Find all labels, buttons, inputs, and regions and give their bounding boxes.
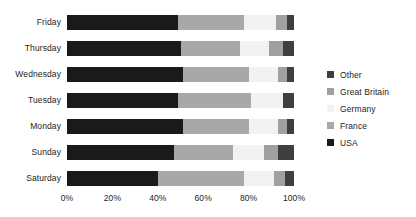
bar-track <box>67 15 294 30</box>
bar-segment <box>67 145 174 160</box>
category-label: Sunday <box>0 147 67 157</box>
legend-swatch-icon <box>327 71 334 78</box>
bar-segment <box>287 119 294 134</box>
bar-segment <box>283 41 294 56</box>
bar-segment <box>174 145 233 160</box>
bar-segment <box>183 67 249 82</box>
bar-segment <box>67 15 178 30</box>
bar-segment <box>158 171 244 186</box>
bar-row: Friday <box>0 9 320 35</box>
bar-row: Saturday <box>0 165 320 191</box>
bar-segment <box>244 15 276 30</box>
category-label: Friday <box>0 17 67 27</box>
bar-segment <box>67 41 181 56</box>
bar-segment <box>251 93 283 108</box>
category-label: Thursday <box>0 43 67 53</box>
bar-track <box>67 67 294 82</box>
stacked-bar-chart: FridayThursdayWednesdayTuesdayMondaySund… <box>0 0 416 217</box>
bar-track <box>67 93 294 108</box>
category-label: Monday <box>0 121 67 131</box>
x-axis-tick-label: 0% <box>61 193 74 204</box>
bar-segment <box>183 119 249 134</box>
legend-item: Other <box>327 66 415 83</box>
bar-segment <box>249 119 279 134</box>
bar-segment <box>283 93 294 108</box>
bar-row: Sunday <box>0 139 320 165</box>
bar-segment <box>285 171 294 186</box>
plot-area: FridayThursdayWednesdayTuesdayMondaySund… <box>0 0 320 217</box>
bar-segment <box>287 67 294 82</box>
bar-segment <box>278 145 294 160</box>
legend-item: Germany <box>327 100 415 117</box>
bar-track <box>67 171 294 186</box>
legend-item: Great Britain <box>327 83 415 100</box>
bar-segment <box>244 171 274 186</box>
legend-item: USA <box>327 134 415 151</box>
x-axis-tick-label: 100% <box>283 193 305 204</box>
bar-segment <box>178 93 251 108</box>
bar-segment <box>264 145 278 160</box>
category-label: Wednesday <box>0 69 67 79</box>
bar-row: Wednesday <box>0 61 320 87</box>
bar-row: Tuesday <box>0 87 320 113</box>
x-axis-tick-label: 20% <box>104 193 121 204</box>
bar-segment <box>269 41 283 56</box>
bar-segment <box>287 15 294 30</box>
bar-segment <box>276 15 287 30</box>
bar-segment <box>233 145 265 160</box>
legend-swatch-icon <box>327 105 334 112</box>
category-label: Saturday <box>0 173 67 183</box>
chart-legend: OtherGreat BritainGermanyFranceUSA <box>327 66 415 151</box>
bar-segment <box>178 15 244 30</box>
bar-rows: FridayThursdayWednesdayTuesdayMondaySund… <box>0 9 320 191</box>
legend-swatch-icon <box>327 139 334 146</box>
bar-segment <box>181 41 240 56</box>
legend-swatch-icon <box>327 122 334 129</box>
bar-segment <box>67 67 183 82</box>
x-axis: 0%20%40%60%80%100% <box>67 193 294 207</box>
legend-label: Other <box>340 70 362 80</box>
x-axis-tick-label: 80% <box>240 193 257 204</box>
bar-segment <box>278 67 287 82</box>
bar-segment <box>278 119 287 134</box>
legend-label: Germany <box>340 104 376 114</box>
legend-swatch-icon <box>327 88 334 95</box>
bar-segment <box>67 171 158 186</box>
legend-label: USA <box>340 138 358 148</box>
bar-track <box>67 41 294 56</box>
bar-segment <box>67 119 183 134</box>
legend-item: France <box>327 117 415 134</box>
category-label: Tuesday <box>0 95 67 105</box>
bar-segment <box>249 67 279 82</box>
bar-segment <box>67 93 178 108</box>
legend-label: Great Britain <box>340 87 389 97</box>
bar-segment <box>274 171 285 186</box>
bar-segment <box>240 41 270 56</box>
x-axis-tick-label: 60% <box>195 193 212 204</box>
bar-track <box>67 145 294 160</box>
bar-track <box>67 119 294 134</box>
x-axis-tick-label: 40% <box>149 193 166 204</box>
bar-row: Monday <box>0 113 320 139</box>
bar-row: Thursday <box>0 35 320 61</box>
legend-label: France <box>340 121 367 131</box>
